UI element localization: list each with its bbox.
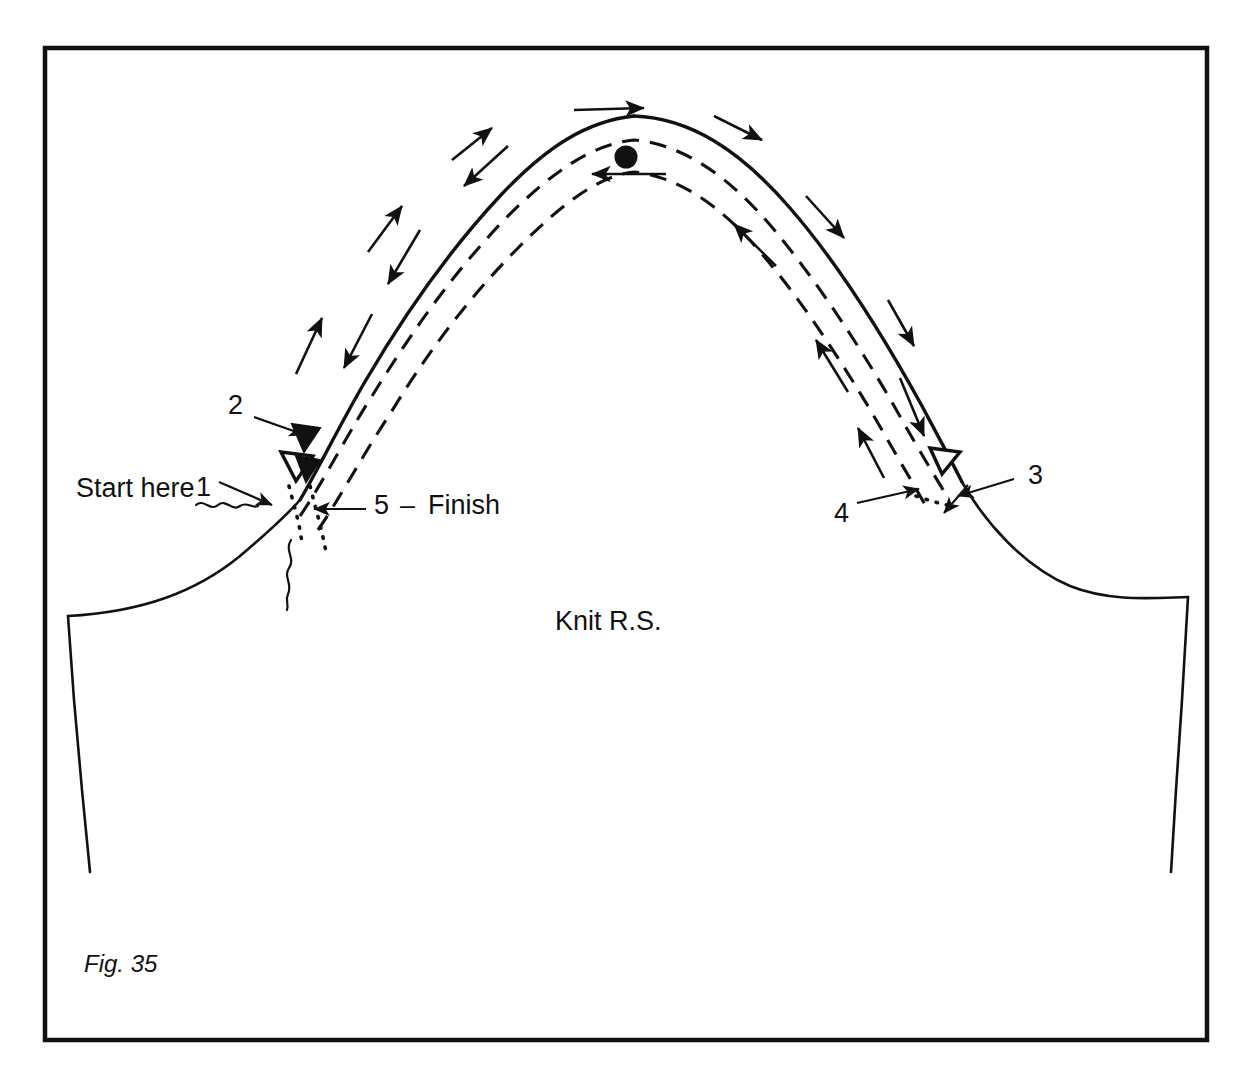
fabric-side-label: Knit R.S.: [555, 608, 662, 635]
leader-line-1: [219, 482, 272, 505]
step-3-label: 3: [1028, 462, 1043, 489]
direction-arrow-left-inner-mid: [388, 230, 420, 284]
sleeve-left-underarm-curve: [68, 500, 300, 616]
sleeve-right-underarm-curve: [962, 482, 1188, 598]
direction-arrow-left-outer-high: [368, 206, 402, 252]
sleeve-left-side-seam: [68, 616, 90, 872]
direction-arrow-right-inner-high: [734, 224, 776, 266]
direction-arrow-left-inner-high: [464, 146, 508, 186]
direction-arrow-left-inner-low: [344, 314, 372, 368]
sleeve-cap-diagram: [0, 0, 1242, 1077]
direction-arrow-left-outer-low: [296, 318, 322, 374]
thread-tail-squiggle-start-icon: [196, 503, 258, 508]
leader-line-3-lower: [944, 485, 968, 513]
figure-border: [45, 48, 1207, 1040]
step-1-label: 1: [196, 474, 211, 501]
ease-stitch-row-inner: [318, 172, 928, 530]
label-dash-separator: –: [400, 492, 415, 519]
direction-arrow-left-outer-top: [452, 128, 492, 160]
figure-container: Start here 1 2 5 – Finish 3 4 Knit R.S. …: [0, 0, 1242, 1077]
thread-tail-squiggle-finish-icon: [287, 540, 291, 610]
figure-caption: Fig. 35: [84, 952, 157, 976]
center-match-dot-icon: [615, 146, 638, 169]
sleeve-right-side-seam: [1171, 597, 1188, 872]
finish-label: Finish: [428, 492, 500, 519]
direction-arrow-right-outer-mid: [888, 300, 914, 346]
direction-arrow-top-outer: [574, 108, 644, 110]
leader-line-4: [857, 489, 919, 503]
direction-arrow-right-outer-top: [714, 116, 762, 140]
step-5-label: 5: [374, 492, 389, 519]
cap-seam-line-left: [300, 116, 634, 500]
start-here-label: Start here: [76, 475, 195, 502]
direction-arrow-right-inner-low: [858, 428, 884, 478]
step-4-label: 4: [834, 500, 849, 527]
notch-left-filled-icon: [292, 424, 320, 452]
step-2-label: 2: [228, 392, 243, 419]
